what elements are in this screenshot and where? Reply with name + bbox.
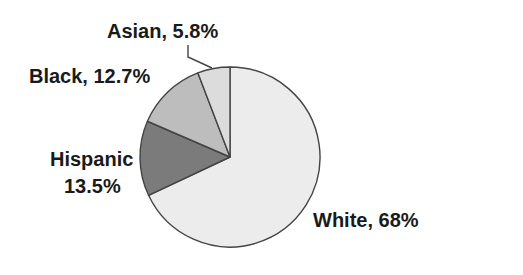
label-asian: Asian, 5.8%	[107, 20, 218, 42]
label-hispanic-value: 13.5%	[64, 175, 121, 197]
label-white: White, 68%	[313, 209, 419, 231]
label-hispanic-name: Hispanic	[50, 148, 133, 170]
pie-chart: Asian, 5.8% Black, 12.7% Hispanic 13.5% …	[0, 0, 523, 275]
asian-leader-line	[188, 45, 212, 68]
label-black: Black, 12.7%	[29, 65, 150, 87]
pie-slices	[140, 67, 320, 247]
pie-chart-canvas: Asian, 5.8% Black, 12.7% Hispanic 13.5% …	[0, 0, 523, 275]
